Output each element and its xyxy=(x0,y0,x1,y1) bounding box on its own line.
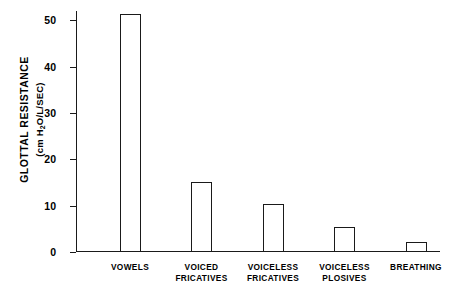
y-axis-line xyxy=(76,11,77,252)
bar xyxy=(120,14,141,252)
y-axis-tick-label: 10 xyxy=(0,201,56,212)
y-axis-tick-label: 0 xyxy=(0,247,56,258)
y-axis-tick-label: 20 xyxy=(0,154,56,165)
bar xyxy=(406,242,427,252)
y-axis-title-line2: (cm H2O/L/SEC) xyxy=(34,82,45,156)
y-axis-tick-label: 30 xyxy=(0,108,56,119)
y-axis-title: GLOTTAL RESISTANCE (cm H2O/L/SEC) xyxy=(17,20,48,220)
y-axis-tick xyxy=(70,113,76,114)
y-axis-tick xyxy=(70,67,76,68)
y-axis-tick xyxy=(70,206,76,207)
bar-chart: GLOTTAL RESISTANCE (cm H2O/L/SEC) 010203… xyxy=(0,0,450,285)
y-axis-tick xyxy=(70,159,76,160)
y-axis-unit-prefix: (cm H xyxy=(34,129,45,156)
y-axis-unit-suffix: O/L/SEC) xyxy=(34,82,45,125)
y-axis-tick xyxy=(70,252,76,253)
y-axis-tick-label: 50 xyxy=(0,15,56,26)
y-axis-tick-label: 40 xyxy=(0,62,56,73)
bar xyxy=(191,182,212,252)
x-axis-category-label: BREATHING xyxy=(361,262,450,273)
plot-area: 01020304050 xyxy=(76,11,440,252)
y-axis-tick xyxy=(70,20,76,21)
bar xyxy=(334,227,355,252)
bar xyxy=(263,204,284,252)
y-axis-unit-subscript: 2 xyxy=(39,125,46,129)
